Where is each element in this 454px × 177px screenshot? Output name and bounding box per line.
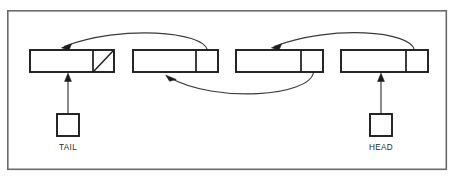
tail-pointer-label: TAIL — [59, 143, 77, 152]
node-body — [341, 50, 428, 72]
head-pointer-box[interactable] — [370, 114, 392, 136]
linked-list-diagram: TAIL HEAD — [0, 0, 454, 177]
diagram-canvas: TAIL HEAD — [0, 0, 454, 177]
tail-pointer-box[interactable] — [57, 114, 79, 136]
head-pointer-label: HEAD — [369, 143, 393, 152]
node-1[interactable] — [30, 50, 114, 72]
node-2[interactable] — [133, 50, 218, 72]
node-3[interactable] — [236, 50, 323, 72]
node-4[interactable] — [341, 50, 428, 72]
node-body — [30, 50, 114, 72]
node-body — [133, 50, 218, 72]
node-body — [236, 50, 323, 72]
